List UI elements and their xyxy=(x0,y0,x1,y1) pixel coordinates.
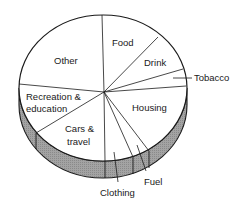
label-cars-line2: travel xyxy=(67,136,90,147)
label-housing: Housing xyxy=(132,102,167,113)
label-drink: Drink xyxy=(144,57,166,68)
label-other: Other xyxy=(54,55,78,66)
label-recreation-line2: education xyxy=(26,103,67,114)
label-food: Food xyxy=(112,37,134,48)
pie-chart: Food Drink Tobacco Housing Fuel Clothing… xyxy=(0,0,247,210)
label-clothing: Clothing xyxy=(100,187,135,198)
label-cars-line1: Cars & xyxy=(65,123,95,134)
label-tobacco: Tobacco xyxy=(194,72,229,83)
label-fuel: Fuel xyxy=(144,176,162,187)
label-recreation-line1: Recreation & xyxy=(26,91,82,102)
